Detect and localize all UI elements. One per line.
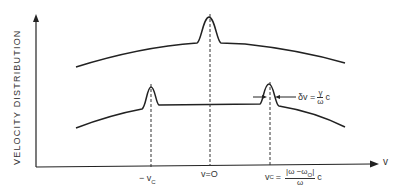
tick-label-zero: v=O <box>201 170 218 179</box>
pos-vc-denominator: ω <box>297 179 303 187</box>
x-axis <box>36 164 372 167</box>
annotation-lhs: δv = <box>298 93 315 102</box>
x-axis-arrow-icon <box>370 161 379 168</box>
y-axis-arrow-icon <box>33 14 39 22</box>
width-arrowhead-left-icon <box>262 95 267 99</box>
pos-vc-eq: = <box>276 173 281 182</box>
annotation-fraction: γ ω <box>317 89 323 106</box>
pos-vc-num-end: | <box>312 167 314 176</box>
diagram-canvas <box>0 0 398 190</box>
y-axis-label: VELOCITY DISTRIBUTION <box>12 29 22 165</box>
linewidth-annotation: δv = γ ω c <box>298 89 330 106</box>
tick-label-neg-vc: − vC <box>139 174 156 185</box>
annotation-denominator: ω <box>317 98 323 106</box>
tick-label-pos-vc: vC = |ω −ωO| ω c <box>265 168 322 187</box>
x-axis-label: v <box>383 157 388 167</box>
pos-vc-sub: C <box>270 174 274 180</box>
pos-vc-fraction: |ω −ωO| ω <box>285 168 315 187</box>
tick-neg-vc-text: − v <box>139 173 151 183</box>
pos-vc-suffix: c <box>317 173 322 182</box>
pos-vc-numerator: |ω −ωO| <box>285 168 315 179</box>
annotation-suffix: c <box>326 93 331 102</box>
tick-neg-vc-sub: C <box>151 179 155 185</box>
pos-vc-num-text: |ω −ω <box>286 167 307 176</box>
